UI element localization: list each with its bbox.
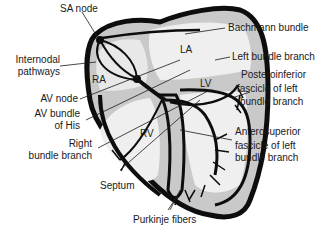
- label-sa-node: SA node: [60, 3, 98, 14]
- label-anterosuperior-1: Anterosuperior: [235, 126, 301, 137]
- label-av-node: AV node: [30, 93, 78, 104]
- label-bachmann: Bachmann bundle: [228, 22, 309, 33]
- label-ra: RA: [92, 74, 106, 85]
- label-internodal-1: Internodal: [10, 54, 60, 65]
- label-lv: LV: [200, 78, 212, 89]
- label-anterosuperior-2: fascicle of left: [235, 140, 296, 151]
- label-posteroinferior-1: Posteroinferior: [241, 69, 306, 80]
- label-anterosuperior-3: bundle branch: [235, 152, 298, 163]
- label-av-bundle-1: AV bundle: [30, 108, 80, 119]
- label-right-bundle-2: bundle branch: [20, 150, 92, 161]
- label-la: LA: [180, 44, 192, 55]
- label-right-bundle-1: Right: [20, 138, 92, 149]
- heart-conduction-diagram: LA RA LV RV SA node Internodal pathways …: [0, 0, 328, 236]
- label-internodal-2: pathways: [10, 66, 60, 77]
- label-posteroinferior-2: fascicle of left: [237, 83, 298, 94]
- label-rv: RV: [140, 128, 154, 139]
- label-av-bundle-2: of His: [30, 120, 80, 131]
- label-posteroinferior-3: bundle branch: [240, 96, 303, 107]
- label-left-bundle: Left bundle branch: [232, 51, 315, 62]
- label-septum: Septum: [100, 180, 134, 191]
- label-purkinje: Purkinje fibers: [133, 214, 196, 225]
